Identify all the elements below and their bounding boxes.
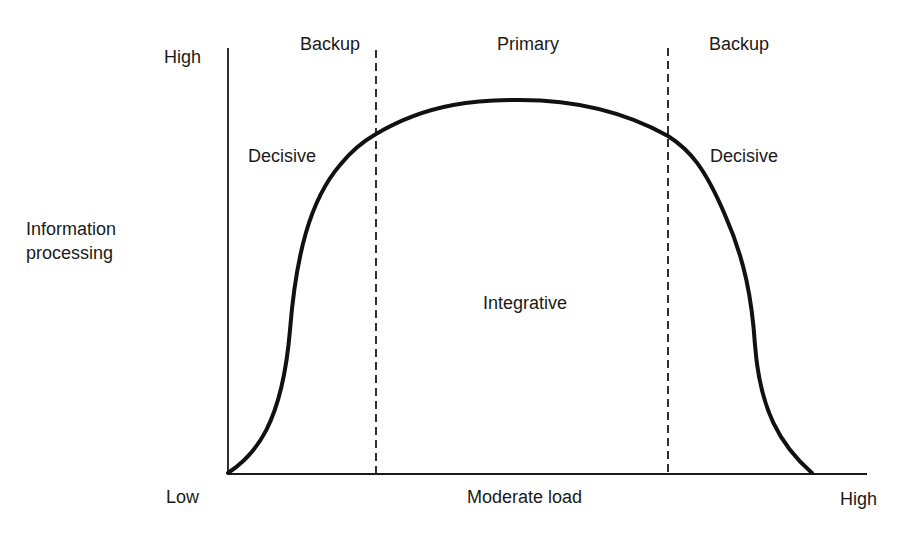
x-axis-high-label: High <box>840 489 877 511</box>
information-processing-diagram: High Information processing Backup Prima… <box>0 0 924 534</box>
y-axis-title: Information processing <box>26 217 116 265</box>
zone-label-right-backup: Backup <box>709 34 769 56</box>
diagram-graphics <box>0 0 924 534</box>
x-axis-low-label: Low <box>166 487 199 509</box>
zone-label-left-backup: Backup <box>300 34 360 56</box>
zone-label-primary: Primary <box>497 34 559 56</box>
y-axis-title-line1: Information <box>26 217 116 241</box>
x-axis-title: Moderate load <box>467 487 582 509</box>
region-label-right-decisive: Decisive <box>710 146 778 168</box>
y-axis-title-line2: processing <box>26 241 116 265</box>
y-axis-high-label: High <box>164 47 201 69</box>
region-label-integrative: Integrative <box>483 293 567 315</box>
region-label-left-decisive: Decisive <box>248 146 316 168</box>
